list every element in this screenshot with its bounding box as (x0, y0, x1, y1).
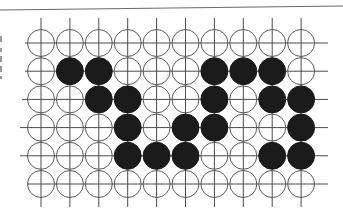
top-rule-line (0, 6, 343, 10)
black-stone (288, 86, 315, 113)
black-stone (288, 142, 315, 169)
black-stone (259, 86, 286, 113)
black-stone (172, 142, 199, 169)
black-stone (114, 142, 141, 169)
black-stone (143, 142, 170, 169)
black-stone (114, 114, 141, 141)
black-stone (85, 86, 112, 113)
black-stone (230, 58, 257, 85)
black-stone (259, 142, 286, 169)
black-stone (172, 114, 199, 141)
stones-layer (28, 30, 315, 198)
go-board-diagram (0, 0, 343, 223)
black-stone (201, 114, 228, 141)
black-stone (259, 58, 286, 85)
black-stone (85, 58, 112, 85)
black-stone (201, 58, 228, 85)
black-stone (201, 86, 228, 113)
black-stone (288, 114, 315, 141)
left-edge-clipped-text (0, 36, 2, 79)
black-stone (56, 58, 83, 85)
black-stone (114, 86, 141, 113)
